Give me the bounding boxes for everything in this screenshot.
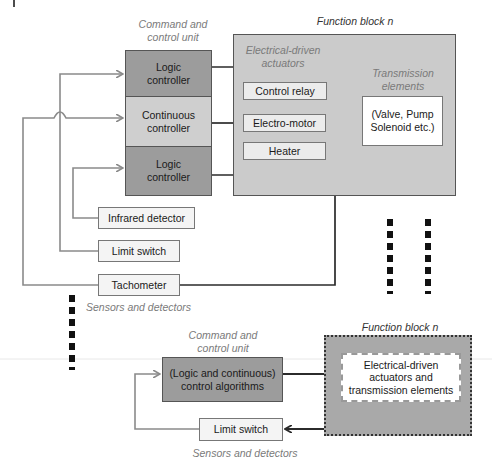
control-algorithms-box: (Logic and continuous) control algorithm… <box>162 357 283 402</box>
limit-switch-box: Limit switch <box>98 240 180 262</box>
caption-line: control unit <box>133 31 213 44</box>
sensors-caption: Sensors and detectors <box>86 301 196 314</box>
logic-controller-1: Logic controller <box>125 50 212 97</box>
caption-line: Command and <box>133 18 213 31</box>
inner-box-label: transmission elements <box>349 384 453 397</box>
continuation-dots-right-2 <box>425 219 431 299</box>
caption-line: Electrical-driven <box>240 44 326 57</box>
actuators-transmission-box: Electrical-driven actuators and transmis… <box>341 353 461 402</box>
transmission-caption: Transmission elements <box>360 67 446 92</box>
caption-line: Command and <box>180 329 266 342</box>
controller-label: controller <box>147 74 190 87</box>
function-block-title: Function block n <box>300 15 410 28</box>
controller-label: controller <box>147 122 190 135</box>
continuous-controller: Continuous controller <box>125 96 212 147</box>
continuation-dots-left <box>69 295 75 375</box>
transmission-label: (Valve, Pump <box>371 108 433 121</box>
continuation-dots-right-1 <box>387 219 393 299</box>
inner-box-label: actuators and <box>369 371 433 384</box>
logic-controller-2: Logic controller <box>125 146 212 196</box>
control-architecture-diagram: Command and control unit Logic controlle… <box>0 0 492 471</box>
command-unit-caption: Command and control unit <box>133 18 213 43</box>
caption-line: elements <box>360 80 446 93</box>
bottom-function-block-title: Function block n <box>345 321 455 334</box>
electro-motor-box: Electro-motor <box>243 114 326 132</box>
tachometer-box: Tachometer <box>98 274 180 296</box>
controller-label: Continuous <box>142 109 195 122</box>
bottom-sensors-caption: Sensors and detectors <box>185 447 305 460</box>
bottom-limit-switch-box: Limit switch <box>199 418 283 441</box>
caption-line: Transmission <box>360 67 446 80</box>
controller-label: Logic <box>156 61 181 74</box>
transmission-label: Solenoid etc.) <box>370 121 434 134</box>
transmission-elements-box: (Valve, Pump Solenoid etc.) <box>362 96 443 146</box>
actuators-caption: Electrical-driven actuators <box>240 44 326 69</box>
caption-line: actuators <box>240 57 326 70</box>
control-algorithms-label: control algorithms <box>181 380 264 393</box>
control-algorithms-label: (Logic and continuous) <box>169 367 275 380</box>
caption-line: control unit <box>180 342 266 355</box>
controller-label: controller <box>147 171 190 184</box>
inner-box-label: Electrical-driven <box>364 359 439 372</box>
bottom-command-unit-caption: Command and control unit <box>180 329 266 354</box>
heater-box: Heater <box>243 142 326 160</box>
infrared-detector-box: Infrared detector <box>98 207 195 229</box>
controller-label: Logic <box>156 158 181 171</box>
control-relay-box: Control relay <box>243 82 327 100</box>
